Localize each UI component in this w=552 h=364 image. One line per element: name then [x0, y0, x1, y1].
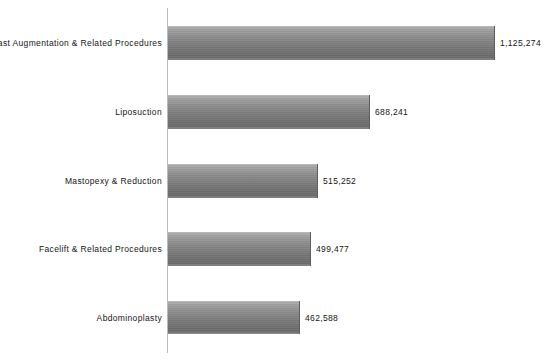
bar-row: Mastopexy & Reduction 515,252 [0, 164, 552, 198]
bar[interactable] [168, 301, 300, 334]
bar-value-label: 688,241 [375, 107, 408, 117]
bar-category-label: Abdominoplasty [97, 313, 162, 323]
bar-value-label: 499,477 [316, 244, 349, 254]
bar-category-label: Liposuction [115, 107, 162, 117]
horizontal-bar-chart: Breast Augmentation & Related Procedures… [0, 0, 552, 364]
bar-row: Facelift & Related Procedures 499,477 [0, 232, 552, 266]
bar-value-label: 1,125,274 [500, 38, 541, 48]
bar-row: Breast Augmentation & Related Procedures… [0, 26, 552, 60]
bar[interactable] [168, 164, 318, 198]
bar-value-label: 515,252 [323, 176, 356, 186]
bar[interactable] [168, 95, 370, 129]
bar-value-label: 462,588 [305, 313, 338, 323]
bar-row: Liposuction 688,241 [0, 95, 552, 129]
bar-row: Abdominoplasty 462,588 [0, 301, 552, 334]
bar-category-label: Mastopexy & Reduction [65, 176, 162, 186]
bar-category-label: Breast Augmentation & Related Procedures [0, 38, 162, 48]
bar[interactable] [168, 232, 311, 266]
bar[interactable] [168, 26, 495, 60]
bar-category-label: Facelift & Related Procedures [39, 244, 162, 254]
